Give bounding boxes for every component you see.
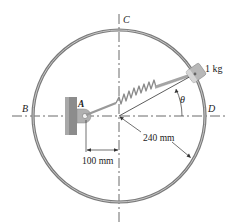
- radius-leader-lower: [172, 142, 190, 157]
- wall-support-shade: [65, 97, 69, 135]
- radius-arrowhead: [187, 154, 192, 159]
- dim-arrow-left: [87, 148, 92, 151]
- label-radius-240mm: 240 mm: [143, 133, 175, 143]
- label-offset-100mm: 100 mm: [82, 156, 114, 166]
- radius-leader-upper: [120, 117, 141, 132]
- connecting-rod: [86, 103, 116, 115]
- label-theta: θ: [180, 94, 185, 105]
- label-point-b: B: [22, 103, 28, 114]
- label-mass: 1 kg: [205, 63, 223, 74]
- collar-pin: [194, 73, 197, 76]
- label-point-d: D: [207, 103, 216, 114]
- label-point-c: C: [123, 14, 130, 25]
- center-arrowhead: [120, 117, 125, 121]
- label-point-a: A: [77, 99, 84, 109]
- diagram-canvas: C B D A 1 kg θ 240 mm 100 mm: [0, 0, 235, 224]
- spring: [116, 80, 156, 104]
- dim-arrow-right: [114, 148, 119, 151]
- collar-rod: [155, 74, 193, 87]
- collar-rod-edge: [155, 76, 193, 89]
